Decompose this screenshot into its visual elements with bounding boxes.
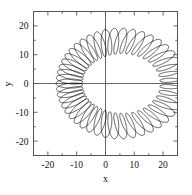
y-tick-labels: -20-1001020 bbox=[16, 21, 29, 146]
x-tick-labels: -20-1001020 bbox=[42, 160, 169, 170]
y-tick-label: 0 bbox=[24, 79, 29, 89]
chart-canvas: -20-1001020 -20-1001020 x y bbox=[0, 0, 192, 195]
y-tick-label: 10 bbox=[19, 50, 29, 60]
y-tick-label: -20 bbox=[16, 137, 29, 147]
x-tick-label: -10 bbox=[70, 160, 83, 170]
y-axis-title: y bbox=[2, 82, 13, 87]
x-axis-title: x bbox=[103, 173, 108, 184]
x-tick-label: 10 bbox=[130, 160, 140, 170]
y-tick-label: 20 bbox=[19, 21, 29, 31]
x-tick-label: -20 bbox=[42, 160, 55, 170]
y-tick-label: -10 bbox=[16, 108, 29, 118]
x-tick-label: 0 bbox=[103, 160, 108, 170]
x-tick-label: 20 bbox=[158, 160, 168, 170]
figure: -20-1001020 -20-1001020 x y bbox=[0, 0, 192, 195]
